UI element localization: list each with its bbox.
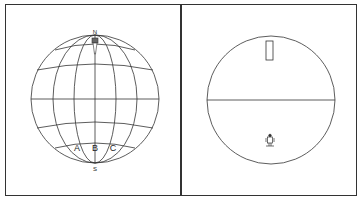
pillar-rect [266, 41, 273, 60]
diagram-canvas: N S A B C [0, 0, 360, 203]
label-a: A [74, 143, 80, 153]
label-c: C [110, 143, 117, 153]
label-south: S [93, 166, 97, 172]
label-b: B [92, 143, 98, 153]
label-north: N [93, 29, 97, 35]
figure-south-icon [266, 134, 274, 146]
figure-north-icon [92, 38, 98, 54]
